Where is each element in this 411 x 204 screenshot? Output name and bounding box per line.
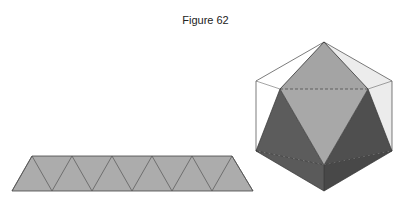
triangle-strip-net [12, 156, 253, 191]
icosahedron-solid [256, 42, 392, 191]
figure-canvas [0, 0, 411, 204]
